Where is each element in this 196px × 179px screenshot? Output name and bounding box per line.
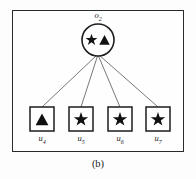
leaf-node-label-u7: u7 (138, 134, 178, 145)
figure-caption: (b) (0, 158, 196, 169)
figure-panel: o2 u4 u5 u6 u7 (b) (0, 0, 196, 179)
figure-frame (12, 10, 184, 152)
root-node-label: o2 (0, 11, 196, 22)
leaf-node-label-u5: u5 (61, 134, 101, 145)
leaf-node-label-u4: u4 (22, 134, 62, 145)
leaf-node-label-u6: u6 (100, 134, 140, 145)
